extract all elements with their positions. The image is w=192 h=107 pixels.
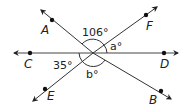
arc-b xyxy=(82,60,105,67)
point-c-dot xyxy=(28,51,32,55)
label-d: D xyxy=(160,57,169,71)
angle-label-a: a° xyxy=(110,40,122,53)
label-f: F xyxy=(146,19,154,33)
label-a: A xyxy=(40,23,49,37)
arc-35 xyxy=(79,53,82,61)
point-a-dot xyxy=(50,18,54,22)
arc-a xyxy=(104,45,107,53)
angle-label-106: 106° xyxy=(82,26,109,39)
point-d-dot xyxy=(162,51,166,55)
angle-diagram: A B C D E F 106° a° 35° b° xyxy=(0,0,192,107)
angle-label-b: b° xyxy=(86,68,98,81)
arc-106 xyxy=(82,39,104,45)
label-c: C xyxy=(24,57,33,71)
label-b: B xyxy=(149,93,157,107)
point-b-dot xyxy=(159,89,163,93)
label-e: E xyxy=(47,89,55,103)
point-f-dot xyxy=(144,13,148,17)
angle-label-35: 35° xyxy=(53,59,73,72)
